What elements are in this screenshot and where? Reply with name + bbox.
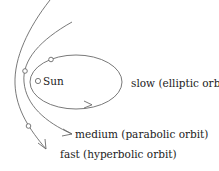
parabolic-orbit-position-marker xyxy=(23,69,28,74)
orbit-diagram: Sun slow (elliptic orbit) medium (parabo… xyxy=(0,0,219,171)
parabolic-orbit-label: medium (parabolic orbit) xyxy=(75,128,208,140)
elliptic-orbit-position-marker xyxy=(49,57,54,62)
hyperbolic-orbit-label: fast (hyperbolic orbit) xyxy=(60,148,177,160)
sun-label: Sun xyxy=(43,75,64,87)
elliptic-orbit-arrowhead-icon xyxy=(84,101,92,108)
sun-icon xyxy=(35,78,40,83)
elliptic-orbit-label: slow (elliptic orbit) xyxy=(131,77,219,89)
hyperbolic-orbit-position-marker xyxy=(26,124,31,129)
sun: Sun xyxy=(35,75,64,87)
